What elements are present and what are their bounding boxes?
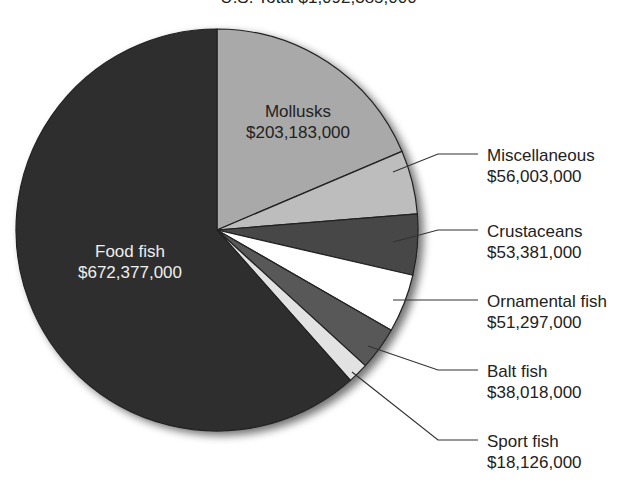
legend-label-sport-fish: Sport fish $18,126,000 bbox=[487, 431, 582, 473]
slice-name: Miscellaneous bbox=[487, 145, 595, 166]
slice-name: Mollusks bbox=[238, 101, 358, 122]
leader-line-sport-fish bbox=[352, 372, 478, 440]
legend-label-ornamental-fish: Ornamental fish $51,297,000 bbox=[487, 291, 607, 333]
leader-line-balt-fish bbox=[368, 346, 478, 370]
legend-label-miscellaneous: Miscellaneous $56,003,000 bbox=[487, 145, 595, 187]
slice-name: Food fish bbox=[55, 241, 205, 262]
slice-name: Ornamental fish bbox=[487, 291, 607, 312]
slice-value: $56,003,000 bbox=[487, 166, 595, 187]
slice-value: $51,297,000 bbox=[487, 312, 607, 333]
slice-value: $53,381,000 bbox=[487, 242, 582, 263]
legend-label-crustaceans: Crustaceans $53,381,000 bbox=[487, 221, 582, 263]
slice-name: Crustaceans bbox=[487, 221, 582, 242]
slice-value: $18,126,000 bbox=[487, 452, 582, 473]
slice-value: $672,377,000 bbox=[55, 262, 205, 283]
slice-name: Balt fish bbox=[487, 361, 582, 382]
slice-label-food-fish: Food fish $672,377,000 bbox=[55, 241, 205, 283]
pie-slices bbox=[16, 29, 418, 431]
slice-value: $38,018,000 bbox=[487, 382, 582, 403]
slice-name: Sport fish bbox=[487, 431, 582, 452]
slice-value: $203,183,000 bbox=[238, 122, 358, 143]
legend-label-balt-fish: Balt fish $38,018,000 bbox=[487, 361, 582, 403]
slice-label-mollusks: Mollusks $203,183,000 bbox=[238, 101, 358, 143]
